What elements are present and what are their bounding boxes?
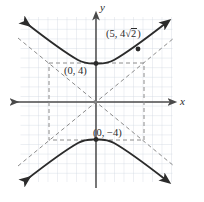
point-vertex-upper: [94, 61, 99, 66]
point-on-curve: [136, 47, 141, 52]
curve-point-label: (5, 4√2): [106, 28, 141, 40]
y-axis-label: y: [100, 2, 105, 13]
curve-point-label-prefix: (5, 4: [106, 28, 125, 39]
graph-canvas: [0, 0, 204, 202]
vertex-upper-label: (0, 4): [64, 66, 87, 77]
hyperbola-figure: x y (0, 4) (0, −4) (5, 4√2): [0, 0, 204, 202]
x-axis-label: x: [180, 96, 185, 107]
curve-point-label-suffix: ): [137, 28, 141, 39]
vertex-lower-label: (0, −4): [93, 128, 122, 139]
